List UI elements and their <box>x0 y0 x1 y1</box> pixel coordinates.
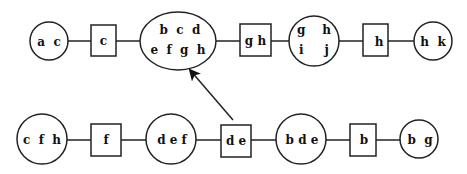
node-t3: b c d e f g h <box>140 12 216 70</box>
separator-label: h <box>375 35 384 49</box>
clique-ellipse <box>140 12 216 70</box>
clique-label-line-2: i j <box>299 43 329 57</box>
clique-label-line-1: g h <box>297 23 331 37</box>
clique-label-line-2: e f g h <box>151 43 206 57</box>
node-b1: c f h <box>17 114 67 164</box>
clique-label: a c <box>37 35 60 49</box>
clique-label-line-1: b c d <box>160 23 201 37</box>
node-b7: b g <box>400 120 438 158</box>
clique-label: h k <box>420 35 446 49</box>
junction-tree-diagram: a c c b c d e f g h g h g h i j h h k c … <box>0 0 467 174</box>
node-t1: a c <box>30 22 68 60</box>
transformation-arrow <box>190 70 233 120</box>
node-b4: d e <box>221 125 251 157</box>
node-t4: g h <box>240 24 271 56</box>
node-t7: h k <box>414 22 452 60</box>
separator-label: g h <box>245 34 267 48</box>
separator-label: c <box>100 34 107 48</box>
node-b5: b d e <box>276 114 326 164</box>
separator-label: b <box>360 133 368 147</box>
clique-label: b d e <box>286 133 319 147</box>
separator-label: f <box>103 133 109 147</box>
node-t5: g h i j <box>289 16 339 66</box>
clique-label: b g <box>407 133 433 147</box>
separator-label: d e <box>226 134 247 148</box>
node-t2: c <box>91 25 116 56</box>
node-b6: b <box>350 124 376 156</box>
node-b3: d e f <box>146 114 196 164</box>
node-t6: h <box>363 24 388 56</box>
clique-label: d e f <box>157 133 187 147</box>
node-b2: f <box>91 124 121 156</box>
clique-label: c f h <box>23 133 61 147</box>
